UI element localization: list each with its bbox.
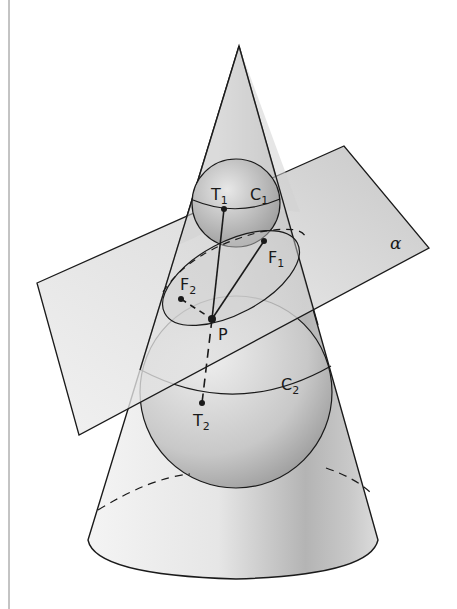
- point-f2: [178, 296, 184, 302]
- dandelin-spheres-diagram: T1 C1 F1 F2 P C2 T2 α: [0, 0, 457, 609]
- point-p: [208, 315, 216, 323]
- point-t2: [199, 400, 205, 406]
- point-f1: [261, 238, 267, 244]
- diagram-canvas: T1 C1 F1 F2 P C2 T2 α: [0, 0, 457, 609]
- label-p: P: [218, 325, 228, 344]
- label-alpha: α: [390, 233, 402, 253]
